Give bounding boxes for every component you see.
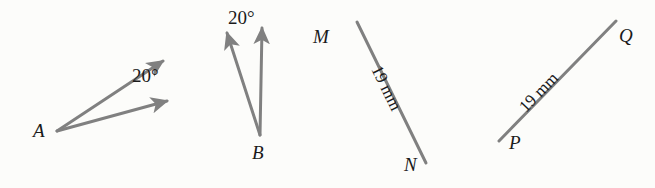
point-label-q: Q bbox=[619, 26, 633, 45]
angle-a-ray-lower bbox=[57, 101, 167, 131]
angle-b-ray-right bbox=[260, 28, 262, 135]
point-label-b: B bbox=[252, 143, 264, 162]
point-label-n: N bbox=[404, 155, 417, 174]
angle-b-ray-left bbox=[227, 33, 260, 135]
point-label-m: M bbox=[313, 27, 329, 46]
angle-measure-label-b: 20° bbox=[228, 8, 255, 27]
angle-b-figure bbox=[227, 28, 262, 135]
angle-measure-label-a: 20° bbox=[132, 66, 159, 85]
point-label-a: A bbox=[33, 121, 45, 140]
geometry-figure-sheet: A B M N P Q 20° 20° 19 mm 19 mm bbox=[0, 0, 655, 188]
point-label-p: P bbox=[509, 133, 521, 152]
